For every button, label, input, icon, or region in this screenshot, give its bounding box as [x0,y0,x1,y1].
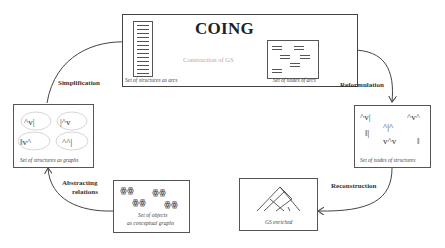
document-icon [133,21,153,77]
svg-text:‖: ‖ [417,136,420,146]
diagram-title: COING [195,19,254,39]
coing-box: COING Set of structures as arcs Construc… [122,14,358,87]
svg-text:^^|: ^^| [62,137,72,147]
svg-text:^v^: ^v^ [407,112,421,122]
conceptual-graphs-icon: ꙮꙮ ꙮꙮ ꙮꙮ ꙮꙮ [114,181,189,211]
svg-text:^v|: ^v| [24,117,35,127]
svg-text:ꙮꙮ: ꙮꙮ [152,188,166,197]
nodes-structures-caption: Set of nodes of structures [360,157,415,163]
gs-enriched-box: GS enriched [239,178,318,231]
conceptual-caption-2: as conceptual graphs [127,220,174,226]
lattice-icon [240,179,317,217]
gs-enriched-caption: GS enriched [265,219,292,225]
simplification-label: Simplification [58,79,100,87]
nodes-arcs-caption: Set of nodes of arcs [273,77,316,83]
structures-graphs-box: ^v| |^v ‖v^ ^^| Set of structures as gra… [13,104,94,168]
construction-label: Construction of GS [183,56,234,63]
nodes-structures-box: ^v| ^v^ ^|^ ‖| v^v ‖ Set of nodes of str… [354,105,431,168]
svg-text:^|^: ^|^ [383,122,394,132]
structures-graphs-caption: Set of structures as graphs [20,157,78,163]
reconstruction-label: Reconstruction [331,182,377,190]
svg-text:‖v^: ‖v^ [20,137,32,147]
svg-text:|^v: |^v [60,117,71,127]
svg-text:^v|: ^v| [360,112,371,122]
svg-text:v^v: v^v [383,136,397,146]
svg-text:ꙮꙮ: ꙮꙮ [164,200,178,209]
conceptual-caption-1: Set of objects [138,212,167,218]
nodes-of-arcs-icon [267,40,319,79]
conceptual-graphs-box: ꙮꙮ ꙮꙮ ꙮꙮ ꙮꙮ Set of objects as conceptual… [113,180,190,233]
abstracting-label-2: relations [72,188,98,196]
graph-clusters-icon: ^v| |^v ‖v^ ^^| [14,105,93,155]
svg-text:ꙮꙮ: ꙮꙮ [132,198,146,207]
svg-text:ꙮꙮ: ꙮꙮ [120,186,134,195]
abstracting-label-1: Abstracting [62,179,97,187]
svg-text:‖|: ‖| [365,128,370,138]
reformulation-label: Reformulation [340,81,384,89]
structure-nodes-icon: ^v| ^v^ ^|^ ‖| v^v ‖ [355,106,430,156]
structures-arcs-caption: Set of structures as arcs [125,77,177,83]
